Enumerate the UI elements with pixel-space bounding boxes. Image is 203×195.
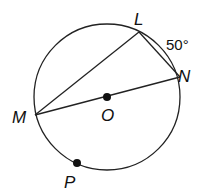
label-M: M [12, 108, 27, 127]
label-L: L [134, 10, 143, 29]
label-P: P [64, 173, 76, 192]
label-N: N [178, 67, 191, 86]
segment-ML [35, 32, 139, 115]
center-point-O [103, 93, 111, 101]
arc-LN-measure: 50° [166, 36, 189, 53]
circle-diagram: L N M O P 50° [0, 0, 203, 195]
point-P [73, 159, 81, 167]
label-O: O [101, 106, 114, 125]
